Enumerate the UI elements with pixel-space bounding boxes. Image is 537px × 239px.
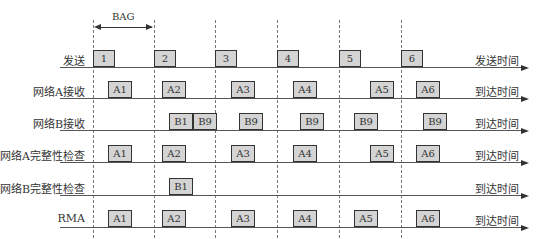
axis-end-label: 到达时间 bbox=[475, 83, 519, 99]
frame-box: A1 bbox=[108, 145, 132, 162]
frame-box: A1 bbox=[108, 81, 132, 98]
frame-box: B9 bbox=[239, 113, 263, 130]
frame-box: B9 bbox=[354, 113, 378, 130]
frame-box: B1 bbox=[169, 178, 193, 195]
frame-box: B9 bbox=[300, 113, 324, 130]
frame-box: 3 bbox=[215, 50, 237, 67]
arrow-right-icon bbox=[521, 65, 529, 71]
frame-box: A3 bbox=[231, 210, 255, 227]
frame-box: A6 bbox=[416, 145, 440, 162]
frame-box: B9 bbox=[193, 113, 217, 130]
time-axis-rma bbox=[60, 227, 522, 228]
arrow-right-icon bbox=[521, 128, 529, 134]
row-label-rma: RMA bbox=[0, 212, 85, 225]
axis-end-label: 到达时间 bbox=[475, 115, 519, 131]
frame-box: A6 bbox=[416, 210, 440, 227]
frame-box: A2 bbox=[162, 81, 186, 98]
time-axis-net-b-recv bbox=[60, 130, 522, 131]
row-label-net-a-recv: 网络A接收 bbox=[0, 83, 85, 99]
frame-box: A4 bbox=[293, 145, 317, 162]
arrow-right-icon bbox=[521, 193, 529, 199]
frame-box: A4 bbox=[293, 81, 317, 98]
frame-box: B9 bbox=[423, 113, 447, 130]
axis-end-label: 到达时间 bbox=[475, 147, 519, 163]
frame-box: 5 bbox=[339, 50, 361, 67]
frame-box: A5 bbox=[370, 81, 394, 98]
time-axis-net-a-recv bbox=[60, 98, 522, 99]
frame-box: 4 bbox=[277, 50, 299, 67]
row-label-send: 发送 bbox=[0, 52, 85, 68]
bag-dimension-line bbox=[96, 27, 152, 28]
arrow-right-icon bbox=[521, 96, 529, 102]
frame-box: 1 bbox=[93, 50, 115, 67]
axis-end-label: 到达时间 bbox=[475, 180, 519, 196]
row-label-net-b-recv: 网络B接收 bbox=[0, 115, 85, 131]
frame-box: A6 bbox=[416, 81, 440, 98]
frame-box: A5 bbox=[354, 210, 378, 227]
bag-label: BAG bbox=[112, 11, 135, 22]
frame-box: A3 bbox=[231, 81, 255, 98]
row-label-net-b-check: 网络B完整性检查 bbox=[0, 180, 85, 196]
arrow-right-icon bbox=[521, 160, 529, 166]
frame-box: A3 bbox=[231, 145, 255, 162]
bag-arrow-right-icon bbox=[146, 24, 153, 30]
axis-end-label: 发送时间 bbox=[475, 52, 519, 68]
frame-box: 2 bbox=[154, 50, 176, 67]
row-label-net-a-check: 网络A完整性检查 bbox=[0, 147, 85, 163]
axis-end-label: 到达时间 bbox=[475, 212, 519, 228]
frame-box: A4 bbox=[293, 210, 317, 227]
time-axis-net-a-check bbox=[60, 162, 522, 163]
time-axis-net-b-check bbox=[60, 195, 522, 196]
frame-box: A1 bbox=[108, 210, 132, 227]
frame-box: 6 bbox=[401, 50, 423, 67]
frame-box: A5 bbox=[370, 145, 394, 162]
frame-box: A2 bbox=[162, 145, 186, 162]
arrow-right-icon bbox=[521, 225, 529, 231]
frame-box: B1 bbox=[169, 113, 193, 130]
frame-box: A2 bbox=[162, 210, 186, 227]
time-axis-send bbox=[60, 67, 522, 68]
